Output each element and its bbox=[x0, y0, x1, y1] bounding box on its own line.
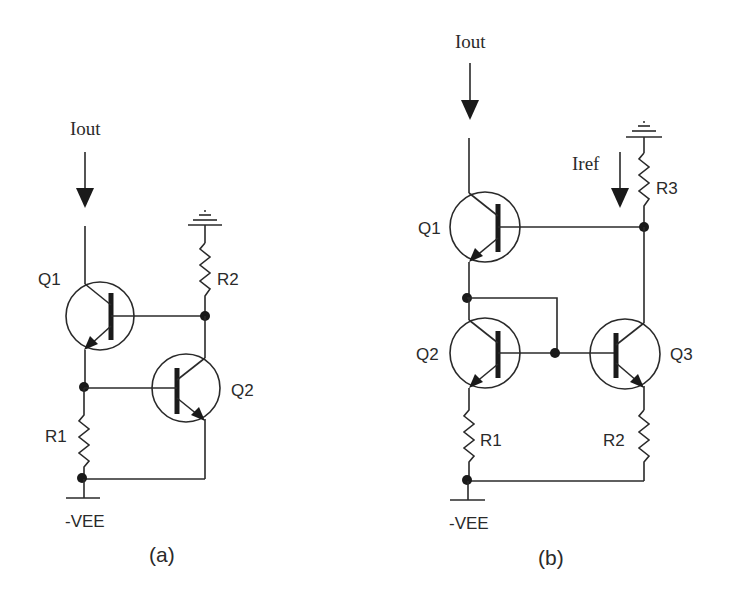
circuit-diagrams: Iout Q1 R2 bbox=[0, 0, 729, 601]
q1-label-a: Q1 bbox=[38, 270, 61, 289]
transistor-q3-b bbox=[590, 319, 660, 410]
junction-dot bbox=[462, 475, 472, 485]
circuit-a: Iout Q1 R2 bbox=[38, 118, 254, 566]
iref-label-b: Iref bbox=[572, 153, 600, 174]
transistor-q2-a bbox=[84, 354, 220, 479]
resistor-r3-b bbox=[639, 153, 649, 227]
r3-label-b: R3 bbox=[656, 179, 678, 198]
q3-label-b: Q3 bbox=[670, 345, 693, 364]
caption-b: (b) bbox=[538, 546, 564, 569]
r2-label-b: R2 bbox=[603, 431, 625, 450]
vee-label-b: -VEE bbox=[449, 514, 489, 533]
circuit-b: Iout Q1 Iref bbox=[416, 31, 693, 569]
iref-arrow-icon-b bbox=[611, 152, 629, 208]
supply-icon-b bbox=[450, 481, 485, 500]
q1-label-b: Q1 bbox=[418, 219, 441, 238]
q2-label-b: Q2 bbox=[416, 345, 439, 364]
r1-label-a: R1 bbox=[45, 427, 67, 446]
q2-label-a: Q2 bbox=[231, 381, 254, 400]
iout-label-a: Iout bbox=[70, 118, 101, 139]
junction-dot bbox=[77, 473, 87, 483]
vee-label-a: -VEE bbox=[65, 512, 105, 531]
resistor-r2-a bbox=[200, 243, 210, 316]
iout-arrow-icon-a bbox=[76, 152, 94, 208]
iout-label-b: Iout bbox=[455, 31, 486, 52]
r1-label-b: R1 bbox=[480, 431, 502, 450]
ground-icon-a bbox=[188, 211, 222, 243]
r2-label-a: R2 bbox=[217, 270, 239, 289]
iout-arrow-icon-b bbox=[461, 63, 479, 120]
caption-a: (a) bbox=[149, 543, 175, 566]
transistor-q1-a bbox=[66, 282, 205, 350]
resistor-r1-b bbox=[464, 388, 474, 481]
transistor-q1-b bbox=[450, 192, 644, 262]
ground-icon-b bbox=[626, 122, 662, 153]
resistor-r1-a bbox=[79, 388, 89, 479]
transistor-q2-b bbox=[450, 318, 616, 388]
resistor-r2-b bbox=[639, 410, 649, 481]
junction-dot bbox=[550, 348, 560, 358]
